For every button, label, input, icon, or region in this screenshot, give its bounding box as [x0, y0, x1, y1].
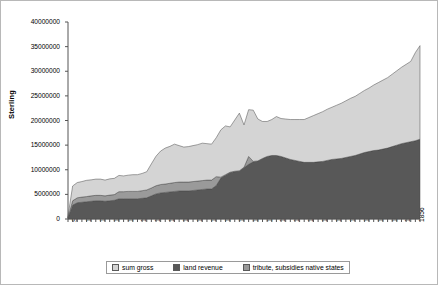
legend-item: land revenue — [173, 264, 222, 271]
legend-swatch-icon — [243, 264, 250, 271]
legend-label: land revenue — [183, 264, 222, 271]
legend-item: sum gross — [112, 264, 153, 271]
legend-label: sum gross — [122, 264, 153, 271]
chart-legend: sum grossland revenuetribute, subsidies … — [106, 261, 350, 274]
legend-label: tribute, subsidies native states — [253, 264, 344, 271]
chart-figure: Sterling 0500000010000000150000002000000… — [0, 0, 438, 285]
legend-swatch-icon — [173, 264, 180, 271]
legend-swatch-icon — [112, 264, 119, 271]
legend-item: tribute, subsidies native states — [243, 264, 344, 271]
plot-area — [0, 0, 438, 285]
